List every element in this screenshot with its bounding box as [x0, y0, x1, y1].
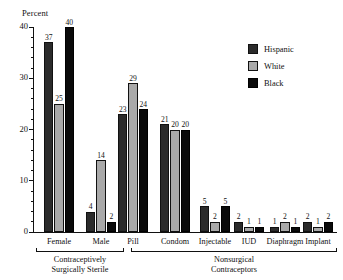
y-axis-minor-tick	[31, 47, 33, 48]
y-axis-minor-tick	[31, 150, 33, 151]
y-axis-tick-label: 30	[6, 72, 28, 82]
legend-item-hispanic[interactable]: Hispanic	[248, 42, 294, 56]
legend: HispanicWhiteBlack	[248, 42, 294, 93]
bar-diaphragm-hispanic	[270, 227, 280, 232]
legend-label: Black	[264, 79, 284, 88]
bar-pill-black	[139, 109, 149, 232]
bar-value-label: 29	[124, 74, 142, 83]
legend-swatch-black	[248, 78, 258, 88]
bar-diaphragm-black	[291, 227, 301, 232]
bar-value-label: 40	[60, 18, 78, 27]
bar-iud-white	[244, 227, 254, 232]
y-axis-line	[33, 27, 34, 233]
y-axis-minor-tick	[31, 37, 33, 38]
bar-pill-hispanic	[118, 114, 128, 232]
y-axis-minor-tick	[31, 88, 33, 89]
y-axis-tick-label: 10	[6, 175, 28, 185]
y-axis-minor-tick	[31, 57, 33, 58]
bar-male-black	[107, 222, 117, 232]
bar-female-hispanic	[44, 42, 54, 232]
y-axis-tick-label: 20	[6, 124, 28, 134]
bar-condom-white	[170, 130, 180, 233]
y-axis-minor-tick	[31, 211, 33, 212]
group-label-line2: Contraceptors	[174, 265, 294, 275]
x-axis-label-implant: Implant	[283, 237, 343, 246]
y-axis-tick	[29, 78, 33, 79]
y-axis-minor-tick	[31, 98, 33, 99]
y-axis-minor-tick	[31, 68, 33, 69]
group-label-line2: Surgically Sterile	[20, 265, 140, 275]
legend-item-black[interactable]: Black	[248, 76, 294, 90]
y-axis-tick	[29, 27, 33, 28]
bar-implant-black	[324, 222, 334, 232]
bar-female-white	[54, 104, 64, 232]
bar-injectable-white	[210, 222, 220, 232]
group-label: NonsurgicalContraceptors	[174, 255, 294, 274]
bar-condom-hispanic	[160, 124, 170, 232]
group-label: ContraceptivelySurgically Sterile	[20, 255, 140, 274]
legend-label: White	[264, 62, 284, 71]
group-label-line1: Nonsurgical	[174, 255, 294, 265]
bar-injectable-black	[221, 206, 231, 232]
legend-label: Hispanic	[264, 45, 294, 54]
bar-male-hispanic	[86, 212, 96, 233]
bar-iud-black	[255, 227, 265, 232]
y-axis-minor-tick	[31, 201, 33, 202]
y-axis-tick	[29, 129, 33, 130]
y-axis-minor-tick	[31, 139, 33, 140]
bar-value-label: 2	[319, 212, 337, 221]
y-axis-tick	[29, 232, 33, 233]
y-axis-tick-label: 0	[6, 226, 28, 236]
legend-item-white[interactable]: White	[248, 59, 294, 73]
bar-value-label: 14	[92, 151, 110, 160]
legend-swatch-white	[248, 61, 258, 71]
y-axis-tick	[29, 180, 33, 181]
y-axis-minor-tick	[31, 119, 33, 120]
y-axis-minor-tick	[31, 221, 33, 222]
y-axis-minor-tick	[31, 170, 33, 171]
legend-swatch-hispanic	[248, 44, 258, 54]
y-axis-tick-label: 40	[6, 21, 28, 31]
x-axis-line	[33, 232, 337, 233]
group-label-line1: Contraceptively	[20, 255, 140, 265]
bar-value-label: 24	[134, 100, 152, 109]
bar-value-label: 20	[176, 120, 194, 129]
group-bracket	[36, 248, 124, 252]
bar-female-black	[65, 27, 75, 232]
bar-condom-black	[181, 130, 191, 233]
y-axis-minor-tick	[31, 160, 33, 161]
bar-implant-white	[313, 227, 323, 232]
y-axis-title: Percent	[22, 8, 48, 18]
y-axis-minor-tick	[31, 191, 33, 192]
bar-value-label: 5	[196, 197, 214, 206]
bar-value-label: 5	[216, 197, 234, 206]
bar-value-label: 37	[40, 33, 58, 42]
bar-chart: Percent 010203040 3725404142232924212020…	[0, 0, 343, 280]
y-axis-minor-tick	[31, 109, 33, 110]
group-bracket	[131, 248, 337, 252]
